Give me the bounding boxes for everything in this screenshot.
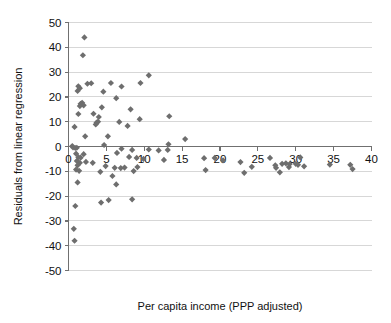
data-point: [134, 164, 140, 170]
data-point: [267, 155, 273, 161]
y-tick-label: 20: [49, 91, 62, 103]
x-tick-label: 5: [103, 153, 109, 165]
data-point-group: [69, 34, 355, 244]
y-tick-label: -10: [45, 165, 62, 177]
data-point: [74, 179, 80, 185]
data-point: [82, 133, 88, 139]
data-point: [71, 226, 77, 232]
y-tick-label: -40: [45, 240, 62, 252]
scatter-chart-figure: -50-40-30-20-100102030405005101520253035…: [0, 0, 391, 323]
data-point: [129, 147, 135, 153]
data-point: [71, 124, 77, 130]
data-point: [83, 159, 89, 165]
data-point: [166, 113, 172, 119]
y-tick-label: 0: [55, 141, 61, 153]
data-point: [201, 155, 207, 161]
data-point: [116, 119, 122, 125]
data-point: [99, 104, 105, 110]
data-point: [277, 169, 283, 175]
data-point: [237, 159, 243, 165]
x-tick-label: 15: [176, 153, 189, 165]
data-point: [113, 95, 119, 101]
data-point: [131, 168, 137, 174]
data-point: [182, 136, 188, 142]
data-point: [90, 111, 96, 117]
x-tick-label: 40: [365, 153, 378, 165]
y-tick-label: 50: [49, 17, 62, 29]
data-point: [128, 106, 134, 112]
data-point: [71, 238, 77, 244]
y-tick-label: -50: [45, 265, 62, 277]
data-point: [113, 181, 119, 187]
data-point: [156, 147, 162, 153]
data-point: [112, 165, 118, 171]
data-point: [98, 199, 104, 205]
data-point: [90, 160, 96, 166]
data-point: [72, 203, 78, 209]
data-point: [80, 52, 86, 58]
data-point: [97, 169, 103, 175]
data-point: [241, 170, 247, 176]
x-tick-label: 25: [251, 153, 264, 165]
data-point: [100, 89, 106, 95]
y-tick-label: 10: [49, 116, 62, 128]
data-point: [75, 111, 81, 117]
data-point: [96, 114, 102, 120]
data-point: [146, 72, 152, 78]
data-point: [114, 150, 120, 156]
data-point: [106, 197, 112, 203]
data-point: [118, 83, 124, 89]
data-point: [88, 80, 94, 86]
data-point: [81, 34, 87, 40]
y-axis-title: Residuals from linear regression: [12, 68, 24, 226]
data-point: [165, 147, 171, 153]
data-point: [161, 157, 167, 163]
data-point: [126, 154, 132, 160]
data-point: [124, 123, 130, 129]
plot-canvas: -50-40-30-20-100102030405005101520253035…: [0, 0, 391, 323]
data-point: [203, 167, 209, 173]
data-point: [121, 164, 127, 170]
data-point: [108, 80, 114, 86]
data-point: [129, 196, 135, 202]
y-tick-label: 40: [49, 41, 62, 53]
y-tick-label: -30: [45, 215, 62, 227]
data-point: [105, 133, 111, 139]
y-tick-label: 30: [49, 66, 62, 78]
y-tick-label: -20: [45, 190, 62, 202]
data-point: [137, 80, 143, 86]
data-point: [109, 173, 115, 179]
data-point: [249, 164, 255, 170]
x-axis-title: Per capita income (PPP adjusted): [138, 300, 303, 312]
x-tick-label: 0: [65, 153, 71, 165]
